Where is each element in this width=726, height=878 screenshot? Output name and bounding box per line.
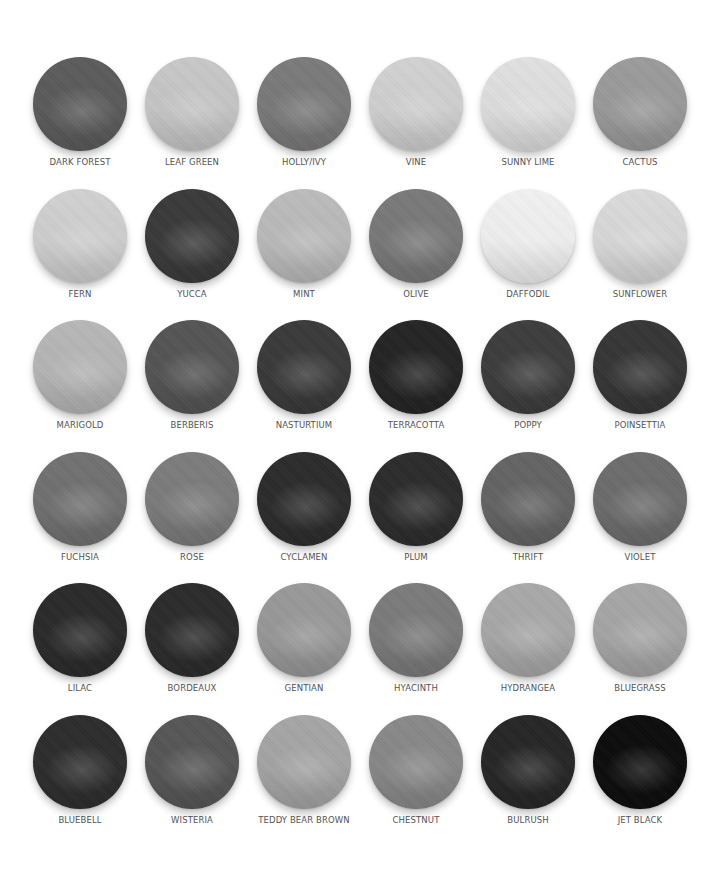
- swatch-label: JET BLACK: [618, 815, 663, 825]
- color-ball: [257, 320, 351, 414]
- color-ball: [369, 583, 463, 677]
- swatch-grid: DARK FOREST LEAF GREEN HOLLY/IVY VINE SU…: [24, 52, 704, 841]
- color-ball: [33, 715, 127, 809]
- color-ball: [145, 452, 239, 546]
- color-ball: [145, 57, 239, 151]
- color-ball: [145, 583, 239, 677]
- swatch-label: ROSE: [180, 552, 204, 562]
- swatch-dark-forest: DARK FOREST: [24, 52, 136, 184]
- swatch-label: CACTUS: [623, 157, 658, 167]
- swatch-label: BORDEAUX: [168, 683, 217, 693]
- swatch-label: POPPY: [514, 420, 542, 430]
- swatch-label: VINE: [406, 157, 426, 167]
- swatch-violet: VIOLET: [584, 447, 696, 579]
- swatch-bluebell: BLUEBELL: [24, 710, 136, 842]
- swatch-cyclamen: CYCLAMEN: [248, 447, 360, 579]
- color-ball: [257, 452, 351, 546]
- swatch-yucca: YUCCA: [136, 184, 248, 316]
- swatch-label: SUNNY LIME: [501, 157, 554, 167]
- color-ball: [33, 583, 127, 677]
- swatch-bulrush: BULRUSH: [472, 710, 584, 842]
- swatch-poinsettia: POINSETTIA: [584, 315, 696, 447]
- swatch-label: MARIGOLD: [57, 420, 104, 430]
- swatch-label: GENTIAN: [285, 683, 324, 693]
- swatch-label: NASTURTIUM: [276, 420, 333, 430]
- swatch-hyacinth: HYACINTH: [360, 578, 472, 710]
- color-ball: [257, 189, 351, 283]
- swatch-wisteria: WISTERIA: [136, 710, 248, 842]
- swatch-sunflower: SUNFLOWER: [584, 184, 696, 316]
- swatch-rose: ROSE: [136, 447, 248, 579]
- swatch-label: TEDDY BEAR BROWN: [258, 815, 350, 825]
- swatch-terracotta: TERRACOTTA: [360, 315, 472, 447]
- color-ball: [369, 715, 463, 809]
- color-ball: [145, 320, 239, 414]
- swatch-label: LILAC: [68, 683, 92, 693]
- swatch-daffodil: DAFFODIL: [472, 184, 584, 316]
- swatch-label: CHESTNUT: [393, 815, 440, 825]
- swatch-label: HYDRANGEA: [501, 683, 556, 693]
- swatch-marigold: MARIGOLD: [24, 315, 136, 447]
- swatch-plum: PLUM: [360, 447, 472, 579]
- swatch-label: DARK FOREST: [50, 157, 111, 167]
- swatch-fern: FERN: [24, 184, 136, 316]
- color-ball: [33, 320, 127, 414]
- color-ball: [593, 452, 687, 546]
- swatch-label: YUCCA: [177, 289, 207, 299]
- swatch-fuchsia: FUCHSIA: [24, 447, 136, 579]
- color-ball: [145, 715, 239, 809]
- color-ball: [257, 57, 351, 151]
- swatch-label: FUCHSIA: [61, 552, 99, 562]
- color-ball: [481, 57, 575, 151]
- swatch-label: TERRACOTTA: [388, 420, 445, 430]
- color-ball: [593, 583, 687, 677]
- swatch-label: OLIVE: [403, 289, 429, 299]
- color-ball: [593, 320, 687, 414]
- color-ball: [481, 715, 575, 809]
- swatch-label: CYCLAMEN: [280, 552, 327, 562]
- swatch-cactus: CACTUS: [584, 52, 696, 184]
- color-ball: [369, 189, 463, 283]
- swatch-olive: OLIVE: [360, 184, 472, 316]
- swatch-jet-black: JET BLACK: [584, 710, 696, 842]
- swatch-sunny-lime: SUNNY LIME: [472, 52, 584, 184]
- color-ball: [369, 452, 463, 546]
- swatch-berberis: BERBERIS: [136, 315, 248, 447]
- swatch-label: DAFFODIL: [506, 289, 549, 299]
- swatch-label: SUNFLOWER: [613, 289, 668, 299]
- swatch-label: BLUEGRASS: [614, 683, 665, 693]
- swatch-bluegrass: BLUEGRASS: [584, 578, 696, 710]
- swatch-label: LEAF GREEN: [165, 157, 219, 167]
- swatch-label: POINSETTIA: [614, 420, 665, 430]
- swatch-label: THRIFT: [513, 552, 544, 562]
- color-ball: [33, 189, 127, 283]
- swatch-hydrangea: HYDRANGEA: [472, 578, 584, 710]
- swatch-leaf-green: LEAF GREEN: [136, 52, 248, 184]
- swatch-label: BLUEBELL: [58, 815, 101, 825]
- color-ball: [257, 583, 351, 677]
- swatch-gentian: GENTIAN: [248, 578, 360, 710]
- swatch-holly-ivy: HOLLY/IVY: [248, 52, 360, 184]
- swatch-teddy-bear-brown: TEDDY BEAR BROWN: [248, 710, 360, 842]
- swatch-label: BULRUSH: [507, 815, 548, 825]
- color-ball: [33, 452, 127, 546]
- color-ball: [257, 715, 351, 809]
- color-ball: [481, 320, 575, 414]
- color-ball: [33, 57, 127, 151]
- color-ball: [593, 189, 687, 283]
- color-ball: [481, 189, 575, 283]
- swatch-label: BERBERIS: [171, 420, 214, 430]
- swatch-nasturtium: NASTURTIUM: [248, 315, 360, 447]
- color-ball: [593, 57, 687, 151]
- swatch-label: HYACINTH: [394, 683, 438, 693]
- color-ball: [481, 452, 575, 546]
- color-ball: [481, 583, 575, 677]
- color-ball: [369, 57, 463, 151]
- color-ball: [593, 715, 687, 809]
- swatch-label: FERN: [69, 289, 92, 299]
- swatch-poppy: POPPY: [472, 315, 584, 447]
- swatch-mint: MINT: [248, 184, 360, 316]
- swatch-label: VIOLET: [625, 552, 656, 562]
- swatch-label: HOLLY/IVY: [282, 157, 326, 167]
- swatch-label: PLUM: [404, 552, 427, 562]
